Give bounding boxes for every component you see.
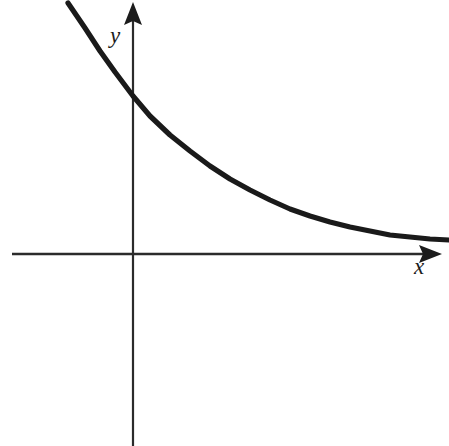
exponential-decay-curve [68, 3, 449, 240]
plot-canvas [0, 0, 449, 446]
x-axis-label: x [414, 255, 424, 278]
exponential-decay-figure: y x [0, 0, 449, 446]
y-axis-label: y [110, 24, 120, 47]
